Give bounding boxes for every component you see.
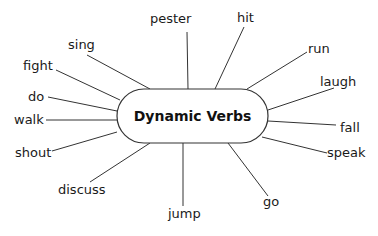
verb-label-speak: speak xyxy=(327,145,366,160)
spoke-line-go xyxy=(228,143,268,196)
verb-label-sing: sing xyxy=(68,37,95,52)
spoke-line-pester xyxy=(187,32,188,89)
spoke-line-shout xyxy=(52,132,117,151)
verb-label-go: go xyxy=(263,194,279,209)
verb-label-fall: fall xyxy=(340,120,360,135)
spoke-line-discuss xyxy=(90,143,150,182)
verb-label-laugh: laugh xyxy=(320,74,356,89)
verb-label-jump: jump xyxy=(167,206,201,221)
verb-label-do: do xyxy=(28,89,44,104)
verb-label-shout: shout xyxy=(15,145,51,160)
verb-label-hit: hit xyxy=(237,10,254,25)
spoke-line-laugh xyxy=(268,88,334,110)
spoke-line-do xyxy=(48,97,117,111)
verb-label-walk: walk xyxy=(14,112,44,127)
verb-label-run: run xyxy=(308,41,330,56)
spoke-line-sing xyxy=(87,55,150,89)
verb-label-pester: pester xyxy=(150,11,192,26)
spoke-line-speak xyxy=(262,137,327,153)
verb-label-discuss: discuss xyxy=(58,182,106,197)
spoke-line-run xyxy=(247,52,307,89)
spoke-line-fall xyxy=(268,121,336,125)
spoke-line-hit xyxy=(215,27,244,89)
dynamic-verbs-diagram: Dynamic Verbs pesterhitrunlaughfallspeak… xyxy=(0,0,378,236)
verb-label-fight: fight xyxy=(23,58,53,73)
center-hub-label: Dynamic Verbs xyxy=(134,108,252,124)
spoke-line-fight xyxy=(56,70,120,100)
